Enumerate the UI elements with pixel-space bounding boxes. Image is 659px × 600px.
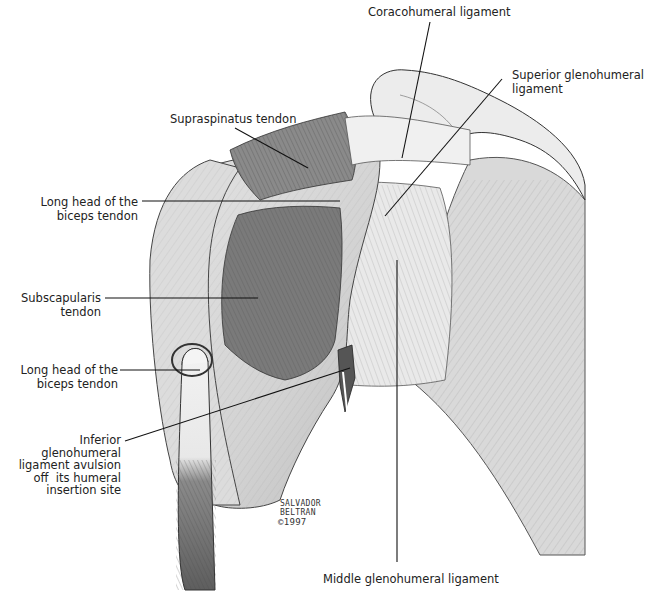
label-long-head-biceps-upper: Long head of the biceps tendon bbox=[28, 195, 138, 223]
label-coracohumeral-ligament: Coracohumeral ligament bbox=[368, 5, 511, 19]
label-long-head-biceps-lower: Long head of the biceps tendon bbox=[8, 363, 118, 391]
label-middle-glenohumeral-ligament: Middle glenohumeral ligament bbox=[323, 572, 499, 586]
label-subscapularis-tendon: Subscapularis tendon bbox=[10, 291, 101, 319]
label-superior-glenohumeral-ligament: Superior glenohumeral ligament bbox=[512, 68, 644, 96]
copyright-year: ©1997 bbox=[278, 518, 307, 527]
label-inferior-glenohumeral-avulsion: Inferior glenohumeral ligament avulsion … bbox=[8, 434, 121, 497]
artist-signature: SALVADOR BELTRAN bbox=[280, 499, 321, 517]
shoulder-anatomy-illustration: Coracohumeral ligament Superior glenohum… bbox=[0, 0, 659, 600]
label-supraspinatus-tendon: Supraspinatus tendon bbox=[170, 112, 296, 126]
